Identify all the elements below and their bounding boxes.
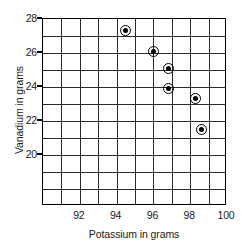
gridline-vertical bbox=[172, 19, 173, 204]
gridline-horizontal bbox=[43, 53, 225, 54]
gridline-vertical bbox=[209, 19, 210, 204]
data-point bbox=[120, 25, 131, 36]
y-axis-tick-label: 28 bbox=[26, 13, 37, 23]
gridline-horizontal bbox=[43, 155, 225, 156]
y-axis-title: Vanadium in grams bbox=[13, 20, 25, 200]
data-point bbox=[190, 93, 201, 104]
gridline-vertical bbox=[190, 19, 191, 204]
y-axis-tick-label: 20 bbox=[26, 149, 37, 159]
data-point bbox=[196, 124, 207, 135]
x-axis-tick-label: 94 bbox=[110, 210, 121, 220]
gridline-vertical bbox=[80, 19, 81, 204]
data-point bbox=[163, 63, 174, 74]
gridline-vertical bbox=[135, 19, 136, 204]
gridline-horizontal bbox=[43, 87, 225, 88]
x-axis-tick-label: 92 bbox=[73, 210, 84, 220]
gridline-horizontal bbox=[43, 138, 225, 139]
y-axis-tick-label: 24 bbox=[26, 81, 37, 91]
x-axis-title: Potassium in grams bbox=[42, 228, 226, 240]
gridline-vertical bbox=[98, 19, 99, 204]
x-axis-tick-label: 98 bbox=[184, 210, 195, 220]
y-axis-tick-mark bbox=[37, 51, 42, 52]
y-axis-tick-mark bbox=[37, 153, 42, 154]
gridline-horizontal bbox=[43, 36, 225, 37]
data-point bbox=[163, 83, 174, 94]
gridline-horizontal bbox=[43, 189, 225, 190]
x-axis-tick-label: 96 bbox=[147, 210, 158, 220]
scatter-chart: 2826242220 92949698100 Potassium in gram… bbox=[0, 0, 242, 246]
y-axis-tick-mark bbox=[37, 17, 42, 18]
gridline-horizontal bbox=[43, 172, 225, 173]
data-point bbox=[148, 46, 159, 57]
gridline-horizontal bbox=[43, 70, 225, 71]
y-axis-tick-label: 22 bbox=[26, 115, 37, 125]
y-axis-tick-mark bbox=[37, 85, 42, 86]
gridline-vertical bbox=[61, 19, 62, 204]
plot-area bbox=[42, 18, 226, 205]
y-axis-tick-mark bbox=[37, 119, 42, 120]
gridline-vertical bbox=[117, 19, 118, 204]
x-axis-tick-label: 100 bbox=[218, 210, 235, 220]
y-axis-tick-label: 26 bbox=[26, 47, 37, 57]
gridline-horizontal bbox=[43, 121, 225, 122]
gridline-horizontal bbox=[43, 104, 225, 105]
